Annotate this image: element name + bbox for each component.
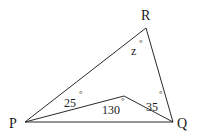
vertex-label-p: P	[9, 116, 17, 131]
segment-pr	[25, 28, 146, 122]
angle-label-130: 130	[102, 103, 120, 117]
angle-label-25: 25	[64, 96, 76, 110]
angle-degree-130: °	[121, 96, 125, 106]
angle-label-35: 35	[146, 100, 158, 114]
angle-degree-25: °	[79, 89, 83, 99]
vertex-label-r: R	[141, 8, 151, 23]
angle-degree-35: °	[159, 89, 163, 99]
vertex-label-q: Q	[177, 116, 187, 131]
angle-degree-z: °	[139, 38, 143, 48]
angle-label-z: z	[131, 44, 136, 58]
triangle-diagram: R P Q z ° 25 ° 130 ° 35 °	[0, 0, 197, 138]
